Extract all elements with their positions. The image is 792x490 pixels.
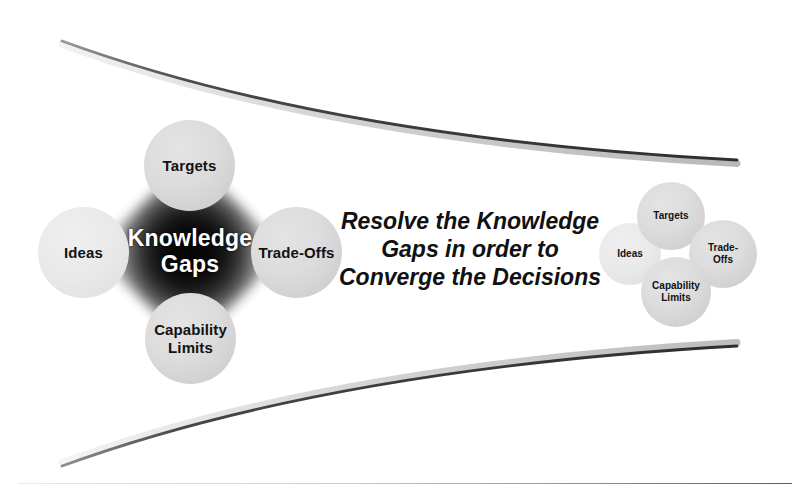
center-statement: Resolve the Knowledge Gaps in order to C… <box>338 207 602 291</box>
left-bubble-ideas-label: Ideas <box>64 244 103 262</box>
right-bubble-ideas-label: Ideas <box>617 248 643 260</box>
right-bubble-trade-offs-label: Trade- Offs <box>708 242 738 266</box>
right-bubble-targets-label: Targets <box>653 210 688 222</box>
right-bubble-capability-limits-label: Capability Limits <box>652 280 700 304</box>
left-bubble-capability-limits[interactable]: Capability Limits <box>145 293 236 384</box>
left-bubble-capability-limits-label: Capability Limits <box>154 321 227 357</box>
knowledge-gaps-core-label: Knowledge Gaps <box>120 226 260 278</box>
left-bubble-targets-label: Targets <box>163 157 217 175</box>
left-bubble-trade-offs[interactable]: Trade-Offs <box>251 207 342 298</box>
right-bubble-capability-limits[interactable]: Capability Limits <box>641 257 711 327</box>
bottom-hairline-divider <box>18 483 792 484</box>
left-bubble-trade-offs-label: Trade-Offs <box>258 244 334 262</box>
diagram-canvas: Knowledge Gaps Targets Ideas Trade-Offs … <box>0 0 792 490</box>
left-bubble-targets[interactable]: Targets <box>144 120 235 211</box>
left-bubble-ideas[interactable]: Ideas <box>38 207 129 298</box>
